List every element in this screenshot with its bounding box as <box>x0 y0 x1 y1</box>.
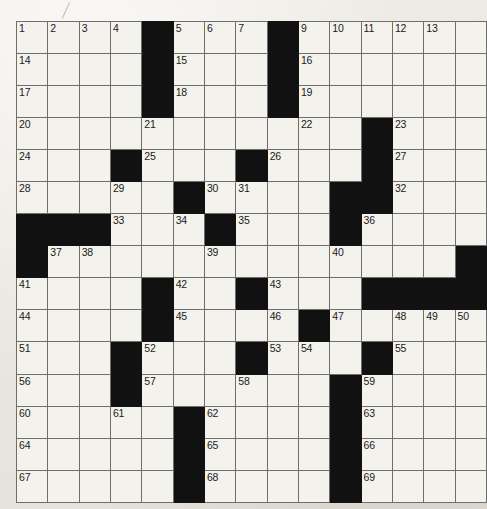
crossword-cell[interactable]: 43 <box>267 278 298 310</box>
crossword-cell[interactable] <box>204 342 235 374</box>
crossword-cell[interactable] <box>455 214 486 246</box>
crossword-cell[interactable] <box>298 438 329 470</box>
crossword-cell[interactable] <box>173 342 204 374</box>
crossword-cell[interactable]: 35 <box>236 214 267 246</box>
crossword-cell[interactable]: 14 <box>17 54 48 86</box>
crossword-grid[interactable]: 1234567910111213141516171819202122232425… <box>16 21 487 503</box>
crossword-cell[interactable] <box>424 86 455 118</box>
crossword-cell[interactable]: 54 <box>298 342 329 374</box>
crossword-cell[interactable]: 62 <box>204 406 235 438</box>
crossword-cell[interactable]: 36 <box>361 214 392 246</box>
crossword-cell[interactable]: 6 <box>204 22 235 54</box>
crossword-cell[interactable] <box>236 118 267 150</box>
crossword-cell[interactable] <box>79 406 110 438</box>
crossword-cell[interactable] <box>236 310 267 342</box>
crossword-cell[interactable] <box>267 374 298 406</box>
crossword-cell[interactable] <box>330 342 361 374</box>
crossword-cell[interactable] <box>48 278 79 310</box>
crossword-cell[interactable]: 9 <box>298 22 329 54</box>
crossword-cell[interactable] <box>48 118 79 150</box>
crossword-cell[interactable]: 34 <box>173 214 204 246</box>
crossword-cell[interactable] <box>204 310 235 342</box>
crossword-cell[interactable] <box>79 150 110 182</box>
crossword-cell[interactable]: 52 <box>142 342 173 374</box>
crossword-cell[interactable] <box>110 54 141 86</box>
crossword-cell[interactable] <box>392 438 423 470</box>
crossword-cell[interactable] <box>330 118 361 150</box>
crossword-cell[interactable]: 33 <box>110 214 141 246</box>
crossword-cell[interactable] <box>79 54 110 86</box>
crossword-cell[interactable] <box>330 278 361 310</box>
crossword-cell[interactable]: 53 <box>267 342 298 374</box>
crossword-cell[interactable] <box>424 118 455 150</box>
crossword-cell[interactable]: 10 <box>330 22 361 54</box>
crossword-cell[interactable] <box>204 374 235 406</box>
crossword-cell[interactable] <box>361 310 392 342</box>
crossword-cell[interactable]: 17 <box>17 86 48 118</box>
crossword-cell[interactable] <box>424 246 455 278</box>
crossword-cell[interactable] <box>142 406 173 438</box>
crossword-cell[interactable] <box>267 118 298 150</box>
crossword-cell[interactable] <box>173 150 204 182</box>
crossword-cell[interactable]: 40 <box>330 246 361 278</box>
crossword-cell[interactable] <box>48 310 79 342</box>
crossword-cell[interactable] <box>455 54 486 86</box>
crossword-cell[interactable] <box>173 246 204 278</box>
crossword-cell[interactable] <box>267 470 298 502</box>
crossword-cell[interactable] <box>424 214 455 246</box>
crossword-cell[interactable]: 63 <box>361 406 392 438</box>
crossword-cell[interactable] <box>392 374 423 406</box>
crossword-cell[interactable] <box>424 182 455 214</box>
crossword-cell[interactable] <box>361 246 392 278</box>
crossword-cell[interactable] <box>424 406 455 438</box>
crossword-cell[interactable]: 65 <box>204 438 235 470</box>
crossword-cell[interactable] <box>298 278 329 310</box>
crossword-cell[interactable] <box>48 374 79 406</box>
crossword-cell[interactable]: 45 <box>173 310 204 342</box>
crossword-cell[interactable]: 22 <box>298 118 329 150</box>
crossword-cell[interactable]: 46 <box>267 310 298 342</box>
crossword-cell[interactable]: 23 <box>392 118 423 150</box>
crossword-cell[interactable] <box>142 214 173 246</box>
crossword-cell[interactable]: 56 <box>17 374 48 406</box>
crossword-cell[interactable]: 24 <box>17 150 48 182</box>
crossword-cell[interactable] <box>267 246 298 278</box>
crossword-cell[interactable]: 38 <box>79 246 110 278</box>
crossword-cell[interactable]: 18 <box>173 86 204 118</box>
crossword-cell[interactable] <box>455 86 486 118</box>
crossword-cell[interactable] <box>455 470 486 502</box>
crossword-cell[interactable] <box>298 182 329 214</box>
crossword-cell[interactable]: 19 <box>298 86 329 118</box>
crossword-cell[interactable]: 30 <box>204 182 235 214</box>
crossword-cell[interactable] <box>236 86 267 118</box>
crossword-cell[interactable] <box>204 278 235 310</box>
crossword-cell[interactable] <box>455 438 486 470</box>
crossword-cell[interactable] <box>204 118 235 150</box>
crossword-cell[interactable] <box>298 406 329 438</box>
crossword-cell[interactable] <box>267 406 298 438</box>
crossword-cell[interactable] <box>142 470 173 502</box>
crossword-cell[interactable]: 5 <box>173 22 204 54</box>
crossword-cell[interactable] <box>267 438 298 470</box>
crossword-cell[interactable]: 1 <box>17 22 48 54</box>
crossword-cell[interactable] <box>204 54 235 86</box>
crossword-cell[interactable] <box>173 118 204 150</box>
crossword-cell[interactable]: 64 <box>17 438 48 470</box>
crossword-cell[interactable] <box>267 214 298 246</box>
crossword-cell[interactable]: 27 <box>392 150 423 182</box>
crossword-cell[interactable] <box>424 374 455 406</box>
crossword-cell[interactable] <box>330 150 361 182</box>
crossword-cell[interactable] <box>110 310 141 342</box>
crossword-cell[interactable]: 66 <box>361 438 392 470</box>
crossword-cell[interactable]: 31 <box>236 182 267 214</box>
crossword-cell[interactable]: 41 <box>17 278 48 310</box>
crossword-cell[interactable] <box>236 438 267 470</box>
crossword-cell[interactable]: 51 <box>17 342 48 374</box>
crossword-cell[interactable] <box>110 246 141 278</box>
crossword-cell[interactable] <box>392 214 423 246</box>
crossword-cell[interactable]: 47 <box>330 310 361 342</box>
crossword-cell[interactable] <box>455 22 486 54</box>
crossword-cell[interactable]: 11 <box>361 22 392 54</box>
crossword-cell[interactable] <box>236 246 267 278</box>
crossword-cell[interactable] <box>48 342 79 374</box>
